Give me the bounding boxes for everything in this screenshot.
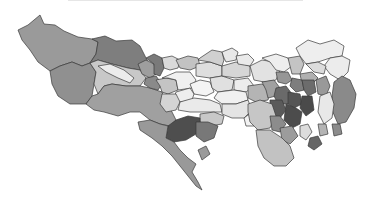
map-region-katsushika bbox=[324, 56, 350, 80]
map-region-koto bbox=[318, 92, 334, 124]
map-region-taito bbox=[302, 80, 316, 96]
map-region-hinohara bbox=[50, 62, 96, 104]
map-container bbox=[0, 0, 365, 203]
map-region-toshima bbox=[276, 72, 292, 84]
map-region-edogawa_s bbox=[332, 124, 342, 136]
map-region-machida_n bbox=[196, 122, 218, 142]
map-region-machida_tip bbox=[198, 146, 210, 160]
map-region-odaiba bbox=[308, 136, 322, 150]
map-region-okutama bbox=[18, 15, 98, 71]
map-region-minato bbox=[284, 104, 302, 128]
map-region-kiyose bbox=[222, 48, 238, 62]
map-region-koto_s bbox=[318, 124, 328, 136]
map-region-higashikurume bbox=[236, 54, 254, 66]
tokyo-choropleth-map bbox=[0, 0, 365, 203]
map-region-koganei bbox=[210, 76, 234, 92]
map-region-edogawa bbox=[332, 76, 356, 124]
